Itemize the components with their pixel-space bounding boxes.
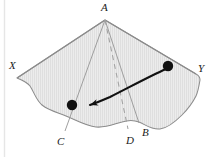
label-base-d: D [126,135,134,146]
label-base-b: B [142,127,149,138]
label-apex-a: A [101,2,108,13]
label-base-c: C [57,136,64,147]
dot-end-point [67,100,77,110]
label-corner-x: X [9,60,16,71]
geometry-figure: A X Y C D B [0,0,218,157]
figure-canvas [0,0,218,157]
label-corner-y: Y [198,63,204,74]
dot-start-point [163,61,173,71]
shaded-region [17,20,200,129]
